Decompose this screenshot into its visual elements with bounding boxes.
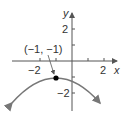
x-tick-label-2: 2 xyxy=(100,64,106,76)
x-axis-label: x xyxy=(113,64,120,76)
y-tick-label-neg2: −2 xyxy=(57,87,70,99)
vertex-label: (−1, −1) xyxy=(24,43,63,55)
vertex-pointer xyxy=(48,55,54,74)
parabola-graph: y x −2 2 2 −2 (−1, −1) xyxy=(0,0,125,113)
x-tick-label-neg2: −2 xyxy=(28,64,41,76)
y-tick-label-2: 2 xyxy=(62,23,68,35)
parabola-curve xyxy=(12,78,100,103)
vertex-point xyxy=(53,75,58,80)
y-axis-label: y xyxy=(62,7,70,19)
